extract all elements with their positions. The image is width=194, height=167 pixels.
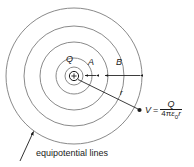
potential-formula: V = Q 4πε0r [145, 100, 182, 120]
radius-label: r [120, 89, 123, 97]
spacing-a-label: A [88, 58, 94, 67]
field-point-dot [137, 108, 141, 112]
radius-line [78, 80, 138, 110]
spacing-b-label: B [116, 58, 122, 67]
formula-denominator-radius: r [178, 109, 181, 118]
formula-variable-v: V [145, 105, 151, 115]
equipotential-diagram: Q A B r equipotential lines V = Q 4πε0r [0, 0, 194, 167]
formula-numerator: Q [165, 100, 178, 109]
caption-leader-arrow [20, 132, 34, 162]
diagram-canvas [0, 0, 194, 167]
equipotential-lines-caption: equipotential lines [36, 149, 108, 158]
charge-label: Q [66, 55, 73, 64]
formula-equals-sign: = [153, 105, 158, 115]
formula-denominator: 4πε0r [160, 110, 182, 120]
formula-fraction: Q 4πε0r [160, 100, 182, 120]
